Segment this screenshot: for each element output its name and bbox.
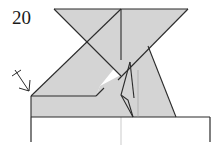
base-outline: [31, 117, 210, 145]
origami-diagram: [0, 0, 218, 145]
right-wedge: [121, 46, 176, 117]
fold-arrow-icon: [12, 70, 30, 91]
